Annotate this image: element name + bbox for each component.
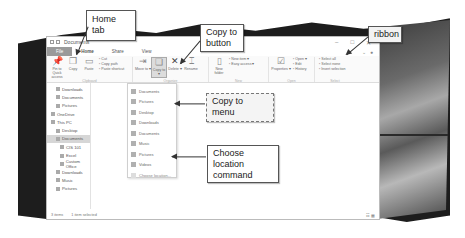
nav-item-documents[interactable]: Documents	[47, 135, 90, 143]
properties-icon[interactable]	[50, 40, 54, 44]
tab-share[interactable]: Share	[103, 47, 133, 56]
open-small-buttons: Open ▾ Edit History	[291, 57, 309, 71]
move-to-icon: ⇥	[139, 57, 148, 67]
videos-icon	[131, 162, 136, 167]
ribbon-help: ⌄ ●	[362, 47, 379, 56]
downloads-icon	[131, 120, 136, 125]
folder-icon	[60, 162, 64, 166]
pictures-icon	[131, 99, 136, 104]
paste-shortcut-button[interactable]: Paste shortcut	[99, 67, 124, 71]
copy-to-menu: Documents Pictures Desktop Downloads Doc…	[127, 83, 177, 178]
ribbon: 📌 Pin to Quick access ❐ Copy ▭ Paste Cut…	[47, 56, 379, 83]
help-icon[interactable]: ●	[370, 49, 373, 55]
nav-item-pictures-pinned[interactable]: Pictures	[47, 102, 90, 110]
copy-menu-item-desktop[interactable]: Desktop	[128, 107, 176, 118]
pin-icon: 📌	[53, 57, 62, 67]
organize-group: ⇥ Move to ▾ ❏ Copy to ▾ ✕ Delete ▾ ⌶ Ren…	[133, 57, 209, 82]
documents-icon	[131, 131, 136, 136]
copy-to-icon: ❏	[155, 58, 164, 68]
music-icon	[56, 178, 60, 182]
status-bar: 3 items 1 item selected ☷ ▦	[47, 211, 379, 219]
downloads-icon	[56, 87, 60, 91]
choose-location-command[interactable]: Choose location...	[128, 170, 176, 181]
copy-to-button[interactable]: ❏ Copy to ▾	[151, 57, 167, 78]
properties-button[interactable]: ☑ Properties ▾	[271, 57, 291, 72]
copy-menu-item-music[interactable]: Music	[128, 139, 176, 150]
copy-menu-item-pictures-2[interactable]: Pictures	[128, 149, 176, 160]
invert-selection-button[interactable]: Invert selection	[319, 67, 345, 71]
select-none-button[interactable]: Select none	[319, 62, 345, 66]
move-to-button[interactable]: ⇥ Move to ▾	[135, 57, 151, 72]
arrow-copy-to-menu	[175, 103, 205, 104]
nav-item-cis-101[interactable]: CIS 101	[47, 143, 90, 151]
callout-ribbon: ribbon	[368, 26, 402, 43]
cloud-icon	[51, 112, 55, 116]
open-button[interactable]: Open ▾	[293, 57, 307, 61]
edit-button[interactable]: Edit	[293, 62, 307, 66]
documents-icon	[56, 137, 60, 141]
select-small-buttons: Select all Select none Invert selection	[317, 57, 347, 71]
new-item-button[interactable]: New item ▾	[229, 57, 254, 61]
new-small-buttons: New item ▾ Easy access ▾	[227, 57, 256, 66]
copy-path-button[interactable]: Copy path	[99, 62, 124, 66]
tab-view[interactable]: View	[133, 47, 161, 56]
desktop-divider	[380, 134, 448, 136]
nav-item-pictures[interactable]: Pictures	[47, 185, 90, 193]
downloads-icon	[56, 170, 60, 174]
select-all-button[interactable]: Select all	[319, 57, 345, 61]
callout-choose-location: Choose location command	[207, 145, 279, 183]
nav-item-music[interactable]: Music	[47, 176, 90, 184]
nav-item-this-pc[interactable]: This PC	[47, 118, 90, 126]
file-explorer-window: Documents – □ ✕ File Home Share View ⌄ ●…	[46, 36, 380, 220]
minimize-button[interactable]: –	[335, 39, 338, 46]
documents-icon	[56, 95, 60, 99]
view-toggle-icons[interactable]: ☷ ▦	[366, 213, 379, 218]
figure: Documents – □ ✕ File Home Share View ⌄ ●…	[0, 0, 465, 238]
expand-ribbon-icon[interactable]: ⌄	[362, 49, 366, 55]
copy-menu-item-pictures[interactable]: Pictures	[128, 97, 176, 108]
maximize-button[interactable]: □	[350, 39, 354, 46]
nav-item-documents-pinned[interactable]: Documents	[47, 93, 90, 101]
easy-access-button[interactable]: Easy access ▾	[229, 62, 254, 66]
copy-menu-item-videos[interactable]: Videos	[128, 160, 176, 171]
cut-button[interactable]: Cut	[99, 57, 124, 61]
selection-count: 1 item selected	[71, 213, 97, 217]
documents-icon	[131, 89, 136, 94]
folder-icon	[131, 173, 136, 178]
callout-copy-to-button: Copy to button	[200, 24, 244, 52]
paste-button[interactable]: ▭ Paste	[81, 57, 97, 72]
item-count: 3 items	[51, 213, 63, 217]
computer-icon	[51, 120, 55, 124]
nav-item-desktop[interactable]: Desktop	[47, 126, 90, 134]
nav-item-custom-office[interactable]: Custom Office	[47, 160, 90, 168]
callout-copy-to-menu: Copy to menu	[206, 93, 274, 122]
copy-menu-item-downloads[interactable]: Downloads	[128, 118, 176, 129]
navigation-pane: Downloads Documents Pictures OneDrive Th…	[47, 83, 91, 209]
nav-item-downloads[interactable]: Downloads	[47, 168, 90, 176]
rename-button[interactable]: ⌶ Rename	[183, 57, 199, 72]
copy-button[interactable]: ❐ Copy	[65, 57, 81, 72]
pictures-icon	[56, 187, 60, 191]
pin-to-quick-access-button[interactable]: 📌 Pin to Quick access	[49, 57, 65, 80]
nav-item-onedrive[interactable]: OneDrive	[47, 110, 90, 118]
pictures-icon	[131, 152, 136, 157]
copy-menu-item-documents[interactable]: Documents	[128, 86, 176, 97]
arrow-choose-location	[172, 156, 206, 157]
properties-check-icon: ☑	[277, 57, 286, 67]
new-group: ▯ New folder New item ▾ Easy access ▾ Ne…	[209, 57, 269, 82]
rename-icon: ⌶	[187, 57, 196, 67]
open-group: ☑ Properties ▾ Open ▾ Edit History Open	[269, 57, 315, 82]
desktop-background	[370, 20, 450, 220]
new-folder-icon[interactable]	[56, 40, 60, 44]
copy-icon: ❐	[69, 57, 78, 67]
nav-item-downloads-pinned[interactable]: Downloads	[47, 85, 90, 93]
paste-icon: ▭	[85, 57, 94, 67]
history-button[interactable]: History	[293, 67, 307, 71]
folder-icon	[60, 154, 64, 158]
clipboard-small-buttons: Cut Copy path Paste shortcut	[97, 57, 126, 71]
desktop-icon	[131, 110, 136, 115]
new-folder-button[interactable]: ▯ New folder	[211, 57, 227, 76]
tab-file[interactable]: File	[47, 47, 72, 56]
copy-menu-item-documents-2[interactable]: Documents	[128, 128, 176, 139]
folder-icon: ▯	[215, 57, 224, 67]
